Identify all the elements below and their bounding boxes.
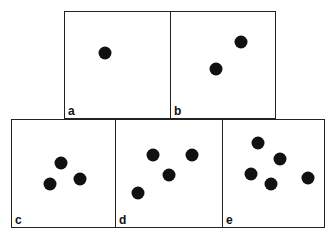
- dot: [210, 63, 223, 76]
- dot: [132, 187, 145, 200]
- dot: [245, 168, 258, 181]
- panel-d: d: [115, 119, 223, 228]
- panel-a: a: [64, 11, 171, 119]
- dot: [163, 169, 176, 182]
- dot: [302, 172, 315, 185]
- dot: [44, 178, 57, 191]
- dot: [265, 178, 278, 191]
- panel-label: c: [15, 214, 22, 226]
- dot: [274, 153, 287, 166]
- dot: [147, 149, 160, 162]
- panel-c: c: [11, 119, 116, 228]
- panel-e: e: [222, 119, 325, 228]
- dot: [252, 137, 265, 150]
- dot: [99, 47, 112, 60]
- panel-label: b: [174, 105, 181, 117]
- panel-label: a: [68, 105, 75, 117]
- dot: [55, 157, 68, 170]
- dot: [74, 173, 87, 186]
- panel-b: b: [170, 11, 276, 119]
- panel-label: e: [226, 214, 233, 226]
- dot: [186, 149, 199, 162]
- dot: [235, 36, 248, 49]
- panel-label: d: [119, 214, 126, 226]
